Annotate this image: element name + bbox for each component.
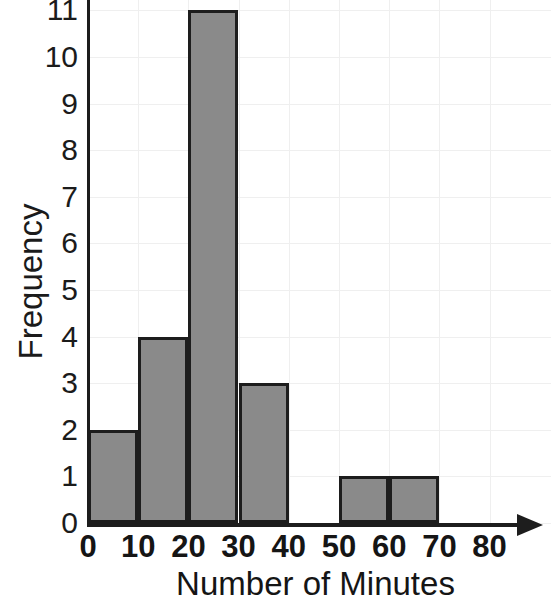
y-tick-label: 2 [10,415,78,445]
grid-line-vertical [490,0,491,523]
x-axis-line [87,523,518,527]
y-tick-label: 10 [10,42,78,72]
histogram-chart: 01234567891011 01020304050607080 Frequen… [0,0,551,600]
grid-line-horizontal [88,197,551,198]
grid-line-horizontal [88,150,551,151]
histogram-bar [389,476,439,523]
y-tick-label: 1 [10,461,78,491]
grid-line-horizontal [88,57,551,58]
grid-line-horizontal [88,104,551,105]
histogram-bar [239,383,289,523]
x-axis-title: Number of Minutes [40,567,551,600]
grid-line-horizontal [88,10,551,11]
grid-line-vertical [339,0,340,523]
grid-line-horizontal [88,290,551,291]
y-axis-title: Frequency [14,162,47,402]
grid-line-vertical [289,0,290,523]
x-tick-label: 80 [450,531,530,562]
y-tick-label: 9 [10,89,78,119]
histogram-bar [339,476,389,523]
histogram-bar [188,10,238,523]
y-axis-line [87,0,90,525]
histogram-bar [138,337,188,523]
y-tick-label: 11 [10,0,78,25]
histogram-bar [88,430,138,523]
grid-line-vertical [389,0,390,523]
grid-line-horizontal [88,243,551,244]
grid-line-vertical [439,0,440,523]
